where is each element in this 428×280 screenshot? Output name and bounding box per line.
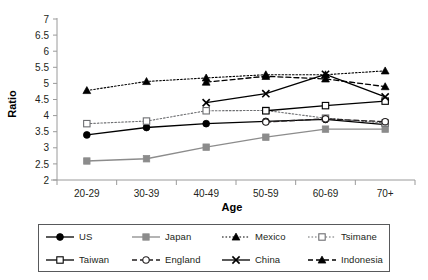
legend-label-tsimane: Tsimane [341, 231, 377, 242]
legend-label-us: US [79, 231, 92, 242]
data-point-marker [84, 120, 90, 126]
figure-container: 22.533.544.555.566.5720-2930-3940-4950-5… [0, 0, 428, 280]
series-line [87, 129, 385, 161]
data-point-marker [381, 67, 389, 74]
legend-item-japan[interactable]: Japan [131, 231, 221, 243]
legend-item-china[interactable]: China [221, 254, 307, 266]
y-tick-label: 2.5 [35, 159, 49, 170]
y-tick-label: 5.5 [35, 62, 49, 73]
legend-row-2: Taiwan England China Indonesia [39, 248, 389, 271]
series-line [206, 74, 385, 102]
data-point-marker [322, 116, 328, 122]
x-tick-label: 60-69 [313, 188, 339, 199]
data-point-marker [322, 126, 328, 132]
legend-item-taiwan[interactable]: Taiwan [45, 254, 131, 266]
legend-item-us[interactable]: US [45, 231, 131, 243]
data-point-marker [319, 233, 325, 239]
data-point-marker [203, 144, 209, 150]
data-point-marker [143, 156, 149, 162]
legend-label-china: China [255, 254, 280, 265]
legend-item-england[interactable]: England [131, 254, 221, 266]
y-tick-label: 3.5 [35, 126, 49, 137]
x-axis-title: Age [222, 201, 243, 213]
y-tick-label: 6 [43, 46, 49, 57]
series-taiwan [263, 98, 389, 114]
legend-label-mexico: Mexico [255, 231, 286, 242]
series-japan [84, 126, 389, 164]
legend-symbol-taiwan [45, 254, 75, 266]
data-point-marker [382, 126, 388, 132]
legend-symbol-china [221, 254, 251, 266]
legend-label-taiwan: Taiwan [79, 254, 109, 265]
data-point-marker [322, 102, 328, 108]
y-tick-label: 2 [43, 175, 49, 186]
x-tick-label: 30-39 [134, 188, 160, 199]
y-tick-label: 3 [43, 142, 49, 153]
data-point-marker [57, 233, 64, 240]
data-point-marker [143, 124, 150, 131]
legend-item-indonesia[interactable]: Indonesia [307, 254, 389, 266]
data-point-marker [263, 134, 269, 140]
data-point-marker [263, 119, 269, 125]
line-chart: 22.533.544.555.566.5720-2930-3940-4950-5… [0, 0, 428, 215]
y-tick-label: 6.5 [35, 30, 49, 41]
legend-label-japan: Japan [165, 231, 191, 242]
legend-label-indonesia: Indonesia [341, 254, 383, 265]
y-axis-title: Ratio [6, 90, 18, 118]
axis-labels-layer: 22.533.544.555.566.5720-2930-3940-4950-5… [35, 14, 394, 199]
data-point-marker [203, 120, 210, 127]
data-point-marker [83, 132, 90, 139]
series-layer [83, 67, 389, 164]
x-tick-label: 40-49 [193, 188, 219, 199]
x-tick-label: 70+ [377, 188, 394, 199]
data-point-marker [84, 158, 90, 164]
legend-symbol-us [45, 231, 75, 243]
x-tick-label: 20-29 [74, 188, 100, 199]
legend-symbol-england [131, 254, 161, 266]
legend-symbol-mexico [221, 231, 251, 243]
data-point-marker [203, 108, 209, 114]
y-tick-label: 7 [43, 14, 49, 25]
chart-legend: US Japan Mexico Tsimane Taiwan Engl [38, 224, 390, 272]
series-line [87, 119, 385, 134]
series-mexico [83, 67, 389, 94]
data-point-marker [263, 108, 269, 114]
data-point-marker [83, 87, 91, 94]
data-point-marker [382, 119, 388, 125]
data-point-marker [143, 256, 149, 262]
x-tick-label: 50-59 [253, 188, 279, 199]
data-point-marker [143, 118, 149, 124]
y-tick-label: 4 [43, 110, 49, 121]
data-point-marker [57, 256, 63, 262]
legend-symbol-indonesia [307, 254, 337, 266]
legend-item-tsimane[interactable]: Tsimane [307, 231, 389, 243]
legend-label-england: England [165, 254, 201, 265]
series-tsimane [84, 107, 389, 127]
series-line [87, 110, 385, 123]
legend-symbol-japan [131, 231, 161, 243]
legend-row-1: US Japan Mexico Tsimane [39, 225, 389, 248]
legend-item-mexico[interactable]: Mexico [221, 231, 307, 243]
data-point-marker [143, 233, 149, 239]
y-tick-label: 5 [43, 78, 49, 89]
y-tick-label: 4.5 [35, 94, 49, 105]
legend-symbol-tsimane [307, 231, 337, 243]
series-line [206, 76, 385, 86]
